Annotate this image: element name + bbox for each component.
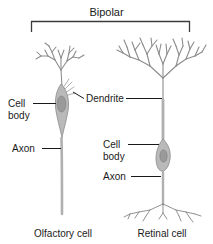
olfactory-cell-body-label-line1: Cell xyxy=(8,98,25,109)
olfactory-axon xyxy=(62,138,63,214)
retinal-cell-body-label-line1: Cell xyxy=(103,139,120,150)
retinal-axon-terminal xyxy=(124,204,201,222)
retinal-nucleus xyxy=(160,150,167,162)
bipolar-neuron-figure: Bipolar xyxy=(0,0,213,244)
dendrite-label: Dendrite xyxy=(86,93,124,104)
olfactory-axon-label-group: Axon xyxy=(12,143,61,154)
olfactory-nucleus xyxy=(57,96,66,112)
bipolar-bracket xyxy=(31,21,190,32)
dendrite-label-group: Dendrite xyxy=(73,92,162,104)
olfactory-axon-label: Axon xyxy=(12,143,35,154)
olfactory-cell-caption: Olfactory cell xyxy=(34,228,92,239)
figure-title: Bipolar xyxy=(89,6,124,18)
retinal-cell-diagram xyxy=(117,38,206,222)
retinal-dendrite-arbor xyxy=(117,38,206,100)
olfactory-dendrite-arbor xyxy=(36,43,84,86)
dendrite-leader-left xyxy=(73,92,84,99)
olfactory-cell-body-label-line2: body xyxy=(8,110,30,121)
retinal-axon-label-group: Axon xyxy=(103,171,161,182)
olfactory-cell-body-label-group: Cell body xyxy=(8,98,56,121)
retinal-cell-body-label-line2: body xyxy=(103,151,125,162)
retinal-cell-caption: Retinal cell xyxy=(138,228,187,239)
retinal-cell-body-label-group: Cell body xyxy=(103,139,159,162)
olfactory-cell-diagram xyxy=(36,43,84,214)
retinal-axon-label: Axon xyxy=(103,171,126,182)
